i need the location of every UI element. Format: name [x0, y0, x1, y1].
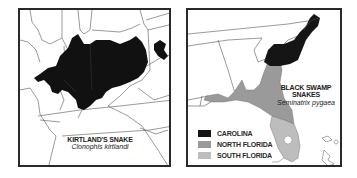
map-title: KIRTLAND'S SNAKE: [60, 136, 140, 143]
kirtlands-range-east: [154, 40, 168, 60]
legend-label: CAROLINA: [217, 130, 252, 137]
scientific-name: Clonophis kirtlandi: [60, 143, 140, 150]
scientific-name: Seminatrix pygaea: [270, 99, 342, 106]
map-panel-black-swamp-snakes: BLACK SWAMP SNAKES Seminatrix pygaea CAR…: [186, 8, 342, 167]
bahamas-islands: [322, 136, 338, 166]
legend-item-north-florida: NORTH FLORIDA: [198, 139, 272, 150]
carolina-range: [264, 14, 320, 66]
legend-swatch: [198, 152, 211, 159]
legend-item-carolina: CAROLINA: [198, 128, 272, 139]
caption-black-swamp: BLACK SWAMP SNAKES Seminatrix pygaea: [270, 84, 342, 106]
kirtlands-range: [34, 34, 148, 110]
legend-label: NORTH FLORIDA: [217, 141, 272, 148]
legend: CAROLINA NORTH FLORIDA SOUTH FLORIDA: [198, 128, 272, 161]
map-title: BLACK SWAMP SNAKES: [270, 84, 342, 99]
legend-item-south-florida: SOUTH FLORIDA: [198, 150, 272, 161]
legend-label: SOUTH FLORIDA: [217, 152, 272, 159]
legend-swatch: [198, 130, 211, 137]
caption-kirtlands: KIRTLAND'S SNAKE Clonophis kirtlandi: [60, 136, 140, 151]
legend-swatch: [198, 141, 211, 148]
map-panel-kirtlands-snake: KIRTLAND'S SNAKE Clonophis kirtlandi: [18, 8, 171, 167]
